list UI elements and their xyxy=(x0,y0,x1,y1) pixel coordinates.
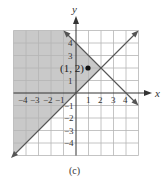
svg-text:−3: −3 xyxy=(30,95,40,105)
svg-text:3: 3 xyxy=(68,51,73,61)
figure-caption: (c) xyxy=(69,165,80,177)
svg-text:−3: −3 xyxy=(64,126,74,136)
svg-text:3: 3 xyxy=(111,95,116,105)
x-axis-label: x xyxy=(154,87,160,99)
svg-text:2: 2 xyxy=(98,95,103,105)
svg-text:4: 4 xyxy=(68,38,73,48)
svg-text:−2: −2 xyxy=(43,95,53,105)
y-axis-label: y xyxy=(71,3,77,15)
svg-text:1: 1 xyxy=(86,95,91,105)
svg-text:1: 1 xyxy=(68,76,73,86)
x-axis-arrow-icon xyxy=(144,90,152,96)
point-label: (1, 2) xyxy=(60,62,84,75)
svg-text:−2: −2 xyxy=(64,113,74,123)
svg-text:−4: −4 xyxy=(18,95,28,105)
svg-text:−4: −4 xyxy=(64,138,74,148)
svg-text:−1: −1 xyxy=(64,101,74,111)
y-axis-arrow-icon xyxy=(73,16,79,24)
svg-text:4: 4 xyxy=(123,95,128,105)
test-point xyxy=(85,65,90,70)
coordinate-plane: (1, 2) −4 −3 −2 −1 1 2 3 4 4 3 1 −1 −2 −… xyxy=(0,0,166,184)
